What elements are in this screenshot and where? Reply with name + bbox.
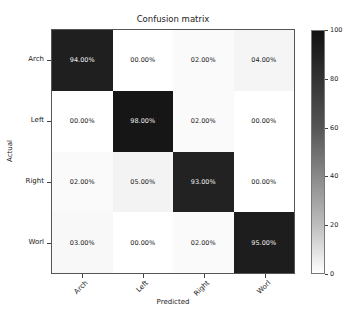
x-axis-title: Predicted — [151, 298, 195, 306]
matrix-cell: 98.00% — [113, 91, 174, 152]
matrix-cell: 00.00% — [113, 212, 174, 273]
colorbar-tick — [325, 79, 328, 80]
colorbar-tick — [325, 176, 328, 177]
y-axis-title: Actual — [6, 140, 14, 162]
matrix-cell: 02.00% — [52, 152, 113, 213]
y-tick-label: Worl — [4, 238, 44, 246]
colorbar-tick-label: 100 — [330, 26, 342, 34]
colorbar-tick-label: 0 — [330, 270, 334, 278]
y-tick-label: Arch — [4, 55, 44, 63]
matrix-cell: 02.00% — [173, 212, 234, 273]
colorbar-tick-label: 20 — [330, 221, 338, 229]
matrix-cell: 03.00% — [52, 212, 113, 273]
colorbar-tick-label: 80 — [330, 75, 338, 83]
matrix-cell: 02.00% — [173, 30, 234, 91]
colorbar-tick-label: 60 — [330, 124, 338, 132]
x-tick — [143, 274, 144, 278]
matrix-cell: 00.00% — [234, 91, 295, 152]
x-tick-label: Right — [192, 279, 211, 298]
x-tick — [204, 274, 205, 278]
matrix-cell: 00.00% — [52, 91, 113, 152]
x-tick — [82, 274, 83, 278]
colorbar-tick-label: 40 — [330, 172, 338, 180]
matrix-cell: 00.00% — [234, 152, 295, 213]
y-tick — [47, 243, 51, 244]
colorbar-tick — [325, 128, 328, 129]
y-tick-label: Left — [4, 116, 44, 124]
colorbar-tick — [325, 30, 328, 31]
y-tick-label: Right — [4, 177, 44, 185]
x-tick-label: Left — [135, 279, 150, 294]
confusion-matrix: 94.00%00.00%02.00%04.00%00.00%98.00%02.0… — [51, 29, 295, 274]
y-tick — [47, 121, 51, 122]
colorbar-tick — [325, 274, 328, 275]
matrix-cell: 04.00% — [234, 30, 295, 91]
y-tick — [47, 60, 51, 61]
matrix-cell: 05.00% — [113, 152, 174, 213]
colorbar — [311, 30, 325, 274]
x-tick — [265, 274, 266, 278]
colorbar-tick — [325, 225, 328, 226]
matrix-cell: 95.00% — [234, 212, 295, 273]
matrix-cell: 00.00% — [113, 30, 174, 91]
matrix-cell: 94.00% — [52, 30, 113, 91]
x-tick-label: Worl — [255, 279, 272, 296]
y-tick — [47, 182, 51, 183]
matrix-cell: 02.00% — [173, 91, 234, 152]
x-tick-label: Arch — [72, 279, 89, 296]
chart-title: Confusion matrix — [51, 14, 295, 24]
matrix-cell: 93.00% — [173, 152, 234, 213]
